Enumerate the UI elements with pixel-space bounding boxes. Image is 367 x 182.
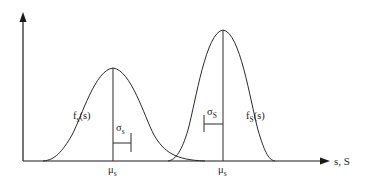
strength-mean-label: μs xyxy=(218,164,227,178)
stress-mean-label: μs xyxy=(108,164,117,178)
stress-pdf-label: fs(s) xyxy=(73,110,91,124)
x-axis-arrow-icon xyxy=(320,158,330,165)
y-axis-arrow-icon xyxy=(20,12,27,22)
stress-pdf-curve xyxy=(43,68,205,161)
strength-sigma-label: σS xyxy=(207,106,217,120)
stress-sigma-label: σs xyxy=(116,122,125,136)
strength-pdf-curve xyxy=(168,30,275,161)
interference-diagram: s, S fs(s) σs μs fS(s) σS μs xyxy=(0,0,367,182)
x-axis-label: s, S xyxy=(334,155,350,167)
